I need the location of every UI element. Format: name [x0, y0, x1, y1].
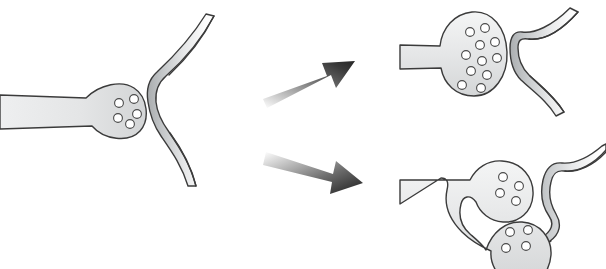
- vesicle: [130, 95, 139, 104]
- transition-arrow-lower: [263, 152, 363, 194]
- vesicle: [493, 54, 502, 63]
- bifurcated-synapse-panel: [400, 144, 606, 269]
- presynaptic-terminal-baseline: [0, 84, 146, 139]
- vesicle: [515, 182, 524, 191]
- vesicle: [491, 38, 500, 47]
- vesicle: [462, 51, 471, 60]
- vesicle: [512, 197, 521, 206]
- vesicle: [481, 24, 490, 33]
- synaptic-plasticity-diagram: [0, 0, 606, 269]
- vesicle: [477, 84, 486, 93]
- vesicle: [114, 114, 123, 123]
- vesicle: [483, 71, 492, 80]
- vesicle: [466, 28, 475, 37]
- vesicle: [467, 67, 476, 76]
- vesicle: [476, 41, 485, 50]
- vesicle: [506, 228, 515, 237]
- vesicle: [496, 189, 505, 198]
- vesicle: [458, 81, 467, 90]
- vesicle: [126, 120, 135, 129]
- baseline-synapse-panel: [0, 14, 214, 186]
- vesicle: [522, 242, 531, 251]
- presynaptic-terminal-enlarged: [400, 12, 507, 96]
- presynaptic-terminal-bifurcated: [400, 161, 551, 269]
- postsynaptic-dendritic-spine-enlarged: [510, 8, 578, 116]
- vesicle: [478, 57, 487, 66]
- vesicle: [502, 244, 511, 253]
- vesicle: [524, 226, 533, 235]
- transition-arrow-upper: [263, 61, 355, 108]
- vesicle: [133, 110, 142, 119]
- postsynaptic-dendritic-spine-baseline: [147, 14, 214, 186]
- diagram-canvas: [0, 0, 606, 269]
- enlarged-synapse-panel: [400, 8, 578, 116]
- vesicle: [115, 99, 124, 108]
- vesicle: [499, 173, 508, 182]
